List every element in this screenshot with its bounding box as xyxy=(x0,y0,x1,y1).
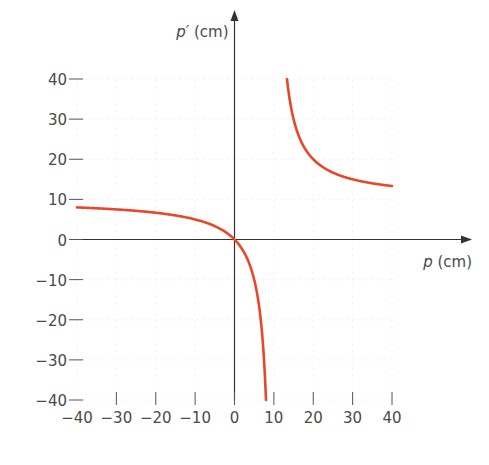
x-tick-label: 0 xyxy=(230,409,240,427)
y-tick-label: 30 xyxy=(48,111,67,129)
curve-lower-branch xyxy=(77,207,266,400)
y-axis-label-unit: (cm) xyxy=(189,23,228,41)
axes xyxy=(77,10,472,400)
x-tick-label: 20 xyxy=(304,409,323,427)
y-tick-label: 20 xyxy=(48,151,67,169)
y-axis-label-var: p′ xyxy=(175,23,190,41)
x-tick-label: 40 xyxy=(382,409,401,427)
y-tick-label: −40 xyxy=(35,392,67,410)
x-axis-label-unit: (cm) xyxy=(433,253,472,271)
y-tick-label: 0 xyxy=(57,232,67,250)
y-tick-label: −30 xyxy=(35,352,67,370)
ticks: −40−30−20−10010203040403020100−10−20−30−… xyxy=(35,71,401,427)
x-axis-label-var: p xyxy=(422,253,433,271)
y-tick-label: 40 xyxy=(48,71,67,89)
y-tick-label: 10 xyxy=(48,191,67,209)
x-tick-label: −40 xyxy=(61,409,93,427)
x-tick-label: 30 xyxy=(343,409,362,427)
y-tick-label: −10 xyxy=(35,272,67,290)
curve-upper-branch xyxy=(287,79,392,186)
x-tick-label: −10 xyxy=(179,409,211,427)
x-tick-label: 10 xyxy=(264,409,283,427)
chart: −40−30−20−10010203040403020100−10−20−30−… xyxy=(0,0,489,465)
x-axis-label: p (cm) xyxy=(422,253,472,271)
x-tick-label: −20 xyxy=(140,409,172,427)
y-tick-label: −20 xyxy=(35,312,67,330)
x-axis-arrow-icon xyxy=(461,236,472,244)
y-axis-label: p′ (cm) xyxy=(175,23,228,41)
x-tick-label: −30 xyxy=(101,409,133,427)
y-axis-arrow-icon xyxy=(231,10,239,21)
